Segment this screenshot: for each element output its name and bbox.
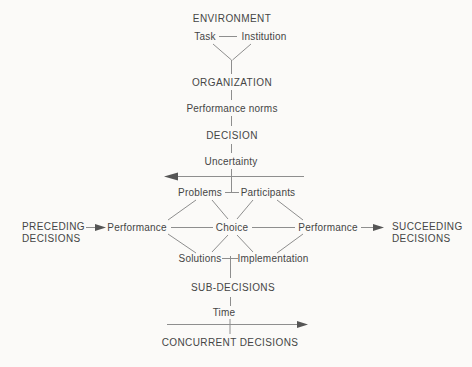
edge-problems-performance-left: [168, 200, 196, 220]
node-solutions: Solutions: [179, 253, 222, 264]
edge-problems-choice: [212, 200, 228, 219]
node-organization: ORGANIZATION: [192, 77, 272, 88]
decision-process-diagram: ENVIRONMENT Task Institution ORGANIZATIO…: [0, 0, 472, 367]
node-time: Time: [213, 307, 236, 318]
node-environment: ENVIRONMENT: [193, 13, 271, 24]
uncertainty-left-arrowhead: [164, 173, 178, 181]
node-decision: DECISION: [206, 130, 258, 141]
label-succeeding-decisions: SUCCEEDING DECISIONS: [392, 221, 463, 245]
label-preceding-decisions: PRECEDING DECISIONS: [22, 221, 85, 245]
connector-lines: [0, 0, 472, 367]
edge-performance-left-solutions: [168, 234, 196, 253]
edge-performance-right-implementation: [277, 234, 303, 253]
preceding-decisions-line2: DECISIONS: [22, 233, 85, 245]
node-choice: Choice: [216, 222, 248, 233]
edge-institution-organization: [233, 44, 252, 60]
succeeding-decisions-line2: DECISIONS: [392, 233, 463, 245]
preceding-arrowhead: [95, 224, 106, 231]
edge-choice-implementation: [237, 235, 253, 252]
node-performance-left: Performance: [107, 222, 166, 233]
node-implementation: Implementation: [237, 253, 308, 264]
node-task: Task: [194, 31, 215, 42]
succeeding-decisions-line1: SUCCEEDING: [392, 221, 463, 233]
label-concurrent-decisions: CONCURRENT DECISIONS: [162, 337, 299, 348]
edge-task-organization: [213, 44, 232, 60]
preceding-decisions-line1: PRECEDING: [22, 221, 85, 233]
edge-choice-solutions: [212, 235, 228, 252]
edge-participants-choice: [237, 200, 253, 219]
node-institution: Institution: [241, 31, 286, 42]
node-performance-norms: Performance norms: [186, 103, 277, 114]
node-uncertainty: Uncertainty: [205, 156, 258, 167]
node-participants: Participants: [241, 187, 296, 198]
node-performance-right: Performance: [298, 222, 357, 233]
edge-participants-performance-right: [277, 200, 303, 220]
node-problems: Problems: [178, 187, 222, 198]
succeeding-arrowhead: [373, 224, 384, 231]
node-sub-decisions: SUB-DECISIONS: [191, 282, 275, 293]
time-axis-arrowhead: [297, 321, 308, 328]
